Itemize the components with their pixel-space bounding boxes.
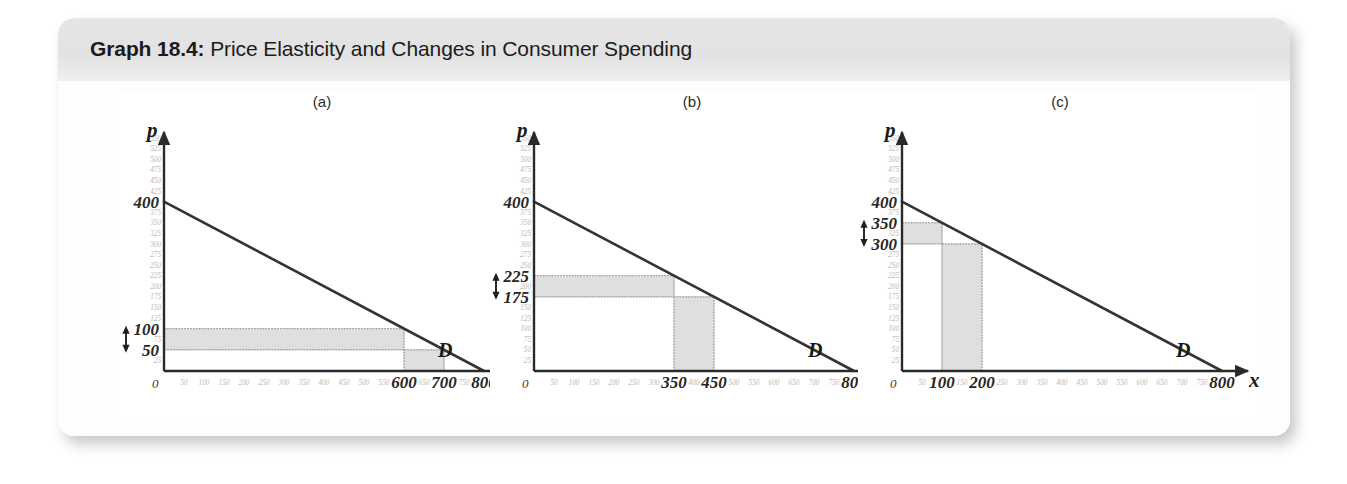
svg-text:500: 500 <box>1097 379 1108 387</box>
svg-text:400: 400 <box>319 379 330 387</box>
svg-text:400: 400 <box>871 193 898 212</box>
svg-text:D: D <box>807 339 822 361</box>
svg-text:225: 225 <box>150 272 161 280</box>
panel-b: (b) 255075100125150200250275300325350375… <box>490 93 894 423</box>
svg-text:75: 75 <box>524 336 532 344</box>
svg-text:200: 200 <box>150 283 161 291</box>
svg-text:400: 400 <box>133 193 160 212</box>
svg-text:50: 50 <box>918 379 926 387</box>
panel-a-plot: 2575125150175200225250275300325350375425… <box>120 119 524 419</box>
svg-text:200: 200 <box>239 379 250 387</box>
svg-text:450: 450 <box>888 177 899 185</box>
panel-a: (a) 257512515017520022525027530032535037… <box>120 93 524 423</box>
svg-text:200: 200 <box>888 283 899 291</box>
svg-text:100: 100 <box>569 379 580 387</box>
svg-text:475: 475 <box>888 166 899 174</box>
svg-text:125: 125 <box>888 315 899 323</box>
svg-text:50: 50 <box>180 379 188 387</box>
svg-text:500: 500 <box>359 379 370 387</box>
svg-text:650: 650 <box>419 379 430 387</box>
svg-text:450: 450 <box>1077 379 1088 387</box>
svg-text:300: 300 <box>149 241 161 249</box>
svg-text:500: 500 <box>520 156 531 164</box>
svg-text:D: D <box>437 339 452 361</box>
svg-text:550: 550 <box>749 379 760 387</box>
svg-text:225: 225 <box>888 272 899 280</box>
panel-c-plot: 2550751001251501752002252502753253754254… <box>858 119 1262 419</box>
svg-text:100: 100 <box>199 379 210 387</box>
figure-title: Graph 18.4: Price Elasticity and Changes… <box>90 37 692 61</box>
svg-text:800: 800 <box>1209 373 1235 392</box>
svg-text:500: 500 <box>729 379 740 387</box>
svg-text:100: 100 <box>888 325 899 333</box>
svg-text:325: 325 <box>149 230 161 238</box>
svg-text:25: 25 <box>524 357 532 365</box>
svg-text:350: 350 <box>1036 379 1048 387</box>
svg-text:275: 275 <box>150 251 161 259</box>
svg-text:150: 150 <box>589 379 600 387</box>
svg-text:600: 600 <box>1137 379 1148 387</box>
svg-text:75: 75 <box>892 336 900 344</box>
svg-text:200: 200 <box>609 379 620 387</box>
svg-text:x: x <box>1248 368 1260 392</box>
svg-text:50: 50 <box>550 379 558 387</box>
svg-text:475: 475 <box>520 166 531 174</box>
svg-text:250: 250 <box>888 262 899 270</box>
panel-a-label: (a) <box>120 93 524 110</box>
svg-text:400: 400 <box>689 379 700 387</box>
svg-text:450: 450 <box>700 373 727 392</box>
figure-title-band: Graph 18.4: Price Elasticity and Changes… <box>58 18 1290 81</box>
svg-text:450: 450 <box>339 379 350 387</box>
svg-text:50: 50 <box>142 341 160 360</box>
panel-c: (c) 255075100125150175200225250275325375… <box>858 93 1262 423</box>
svg-text:250: 250 <box>629 379 640 387</box>
svg-text:750: 750 <box>829 379 840 387</box>
svg-text:100: 100 <box>134 320 160 339</box>
svg-text:150: 150 <box>957 379 968 387</box>
svg-text:275: 275 <box>520 251 531 259</box>
svg-text:600: 600 <box>391 373 417 392</box>
svg-text:250: 250 <box>259 379 270 387</box>
svg-text:300: 300 <box>871 235 898 254</box>
panel-c-label: (c) <box>858 93 1262 110</box>
svg-text:0: 0 <box>890 376 897 391</box>
svg-text:p: p <box>883 119 896 142</box>
svg-text:700: 700 <box>431 373 457 392</box>
svg-text:350: 350 <box>519 219 531 227</box>
svg-text:550: 550 <box>1117 379 1128 387</box>
figure-title-subject: Price Elasticity and Changes in Consumer… <box>204 37 692 60</box>
svg-text:100: 100 <box>929 373 955 392</box>
svg-text:450: 450 <box>150 177 161 185</box>
svg-text:300: 300 <box>1016 379 1028 387</box>
svg-text:650: 650 <box>1157 379 1168 387</box>
svg-text:p: p <box>515 119 528 142</box>
svg-text:350: 350 <box>660 373 687 392</box>
svg-text:700: 700 <box>809 379 820 387</box>
svg-text:175: 175 <box>150 293 161 301</box>
svg-text:0: 0 <box>152 376 159 391</box>
svg-text:325: 325 <box>519 230 531 238</box>
svg-text:525: 525 <box>888 145 899 153</box>
svg-text:350: 350 <box>871 214 898 233</box>
svg-text:D: D <box>1175 339 1190 361</box>
svg-text:125: 125 <box>520 315 531 323</box>
svg-text:50: 50 <box>524 346 532 354</box>
svg-text:750: 750 <box>459 379 470 387</box>
svg-text:200: 200 <box>968 373 995 392</box>
panels-area: (a) 257512515017520022525027530032535037… <box>58 81 1290 436</box>
svg-text:50: 50 <box>892 346 900 354</box>
svg-text:550: 550 <box>379 379 390 387</box>
panel-b-plot: 2550751001251502002502753003253503754254… <box>490 119 894 419</box>
svg-text:150: 150 <box>888 304 899 312</box>
svg-text:500: 500 <box>150 156 161 164</box>
figure-card: Graph 18.4: Price Elasticity and Changes… <box>58 18 1290 436</box>
figure-title-number: Graph 18.4: <box>90 37 204 60</box>
svg-text:p: p <box>145 119 158 142</box>
svg-text:450: 450 <box>520 177 531 185</box>
svg-text:300: 300 <box>278 379 290 387</box>
svg-text:700: 700 <box>1177 379 1188 387</box>
svg-text:250: 250 <box>150 262 161 270</box>
panel-b-label: (b) <box>490 93 894 110</box>
svg-text:600: 600 <box>769 379 780 387</box>
svg-text:500: 500 <box>888 156 899 164</box>
